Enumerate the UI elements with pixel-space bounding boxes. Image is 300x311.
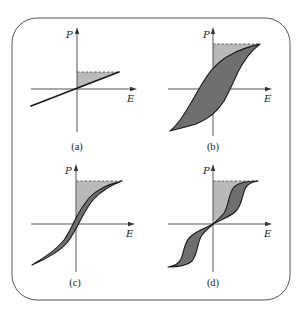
p-axis-label-b: P bbox=[202, 29, 210, 40]
e-axis-label-d: E bbox=[263, 228, 272, 239]
pe-hysteresis-figure: P E (a) P E (b) P E (c) bbox=[0, 0, 300, 311]
figure-frame bbox=[12, 18, 290, 300]
p-axis-label-a: P bbox=[65, 29, 73, 40]
p-axis-arrow-icon-b bbox=[211, 27, 215, 34]
panel-d: P E (d) bbox=[168, 164, 272, 289]
e-axis-arrow-icon-c bbox=[128, 222, 135, 226]
panel-label-a: (a) bbox=[71, 141, 83, 153]
p-axis-arrow-icon-d bbox=[211, 164, 215, 171]
panel-label-b: (b) bbox=[207, 141, 220, 153]
e-axis-arrow-icon-a bbox=[130, 87, 137, 91]
p-axis-arrow-icon-a bbox=[75, 27, 79, 34]
panel-a: P E (a) bbox=[31, 27, 137, 153]
p-axis-arrow-icon-c bbox=[74, 164, 78, 171]
p-axis-label-c: P bbox=[64, 165, 72, 176]
e-axis-arrow-icon-d bbox=[265, 222, 272, 226]
panel-label-d: (d) bbox=[207, 277, 220, 289]
panel-b: P E (b) bbox=[168, 27, 272, 153]
panel-c: P E (c) bbox=[31, 164, 135, 289]
panel-label-c: (c) bbox=[69, 277, 81, 289]
e-axis-arrow-icon-b bbox=[265, 87, 272, 91]
p-axis-label-d: P bbox=[202, 165, 210, 176]
double-loop-lower-d bbox=[168, 224, 213, 267]
e-axis-label-b: E bbox=[263, 93, 272, 104]
e-axis-label-c: E bbox=[125, 228, 134, 239]
e-axis-label-a: E bbox=[126, 93, 135, 104]
